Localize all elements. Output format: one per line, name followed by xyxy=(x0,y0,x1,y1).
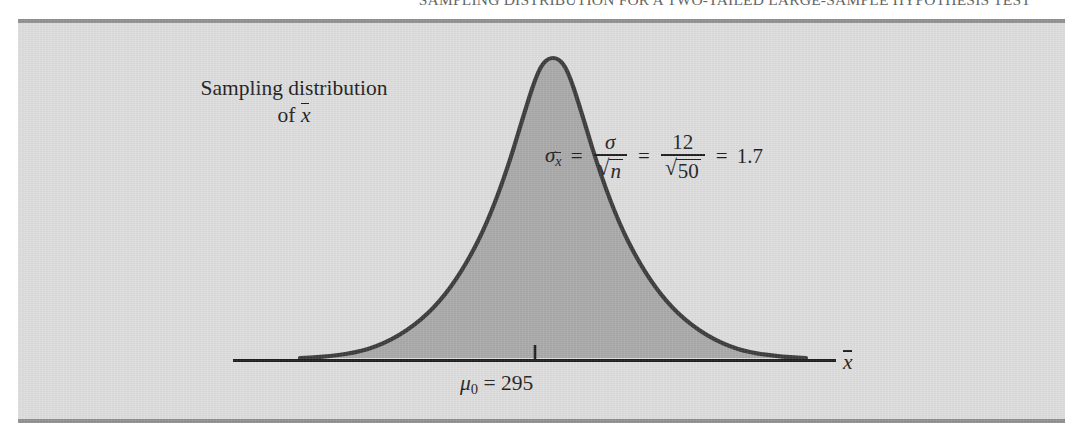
fraction-1-numerator: σ xyxy=(601,131,619,154)
radical-sign-1: √ xyxy=(598,157,610,179)
sigma-subscript-xbar: x xyxy=(555,152,561,170)
running-header-text: SAMPLING DISTRIBUTION FOR A TWO-TAILED L… xyxy=(0,0,1089,9)
figure-panel: Sampling distribution of x σx = σ √n = 1… xyxy=(18,19,1065,423)
axis-x-bar-symbol: x xyxy=(843,349,853,375)
standard-error-formula: σx = σ √n = 12 √50 = 1.7 xyxy=(545,131,763,182)
sigma-xbar-symbol: σx xyxy=(545,143,562,170)
equals-sign-2: = xyxy=(635,144,653,169)
fraction-2-numerator: 12 xyxy=(668,131,697,154)
sampling-distribution-label-line1: Sampling distribution xyxy=(201,76,388,100)
equals-sign-3: = xyxy=(713,144,731,169)
mu-subscript-zero: 0 xyxy=(471,381,478,397)
fraction-2-denominator: √50 xyxy=(661,156,705,182)
radical-n: √n xyxy=(598,158,623,182)
radicand-n: n xyxy=(610,158,624,182)
sampling-distribution-label: Sampling distribution of x xyxy=(194,75,394,128)
equals-sign-1: = xyxy=(568,144,586,169)
mu0-axis-tick-label: μ0 = 295 xyxy=(460,371,533,398)
fraction-12-over-sqrt-50: 12 √50 xyxy=(661,131,705,182)
mu-value: 295 xyxy=(501,371,533,395)
radicand-50: 50 xyxy=(677,158,701,182)
mu-equals-sign: = xyxy=(483,371,495,395)
radical-50: √50 xyxy=(665,158,701,182)
normal-curve-plot xyxy=(18,19,1065,423)
radical-sign-2: √ xyxy=(665,157,677,179)
mu-symbol: μ xyxy=(460,371,471,395)
x-bar-symbol: x xyxy=(301,101,311,128)
standard-error-value: 1.7 xyxy=(737,144,763,169)
x-axis-variable-label: x xyxy=(843,349,853,375)
fraction-1-denominator: √n xyxy=(594,156,627,182)
sampling-distribution-label-line2: of x xyxy=(194,101,394,128)
fraction-sigma-over-sqrt-n: σ √n xyxy=(594,131,627,182)
running-header: SAMPLING DISTRIBUTION FOR A TWO-TAILED L… xyxy=(0,0,1089,11)
normal-curve-svg xyxy=(18,19,1065,423)
